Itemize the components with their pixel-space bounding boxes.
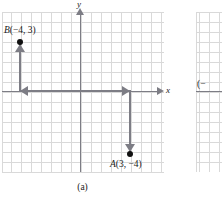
- path-segment-vertical-to-a: [129, 90, 131, 152]
- point-marker-a: [127, 151, 133, 157]
- x-axis-arrowhead-icon: [157, 87, 164, 95]
- point-marker-b: [17, 39, 23, 45]
- neighbor-partial-label: (−: [197, 80, 206, 90]
- y-axis-arrowhead-icon: [76, 8, 84, 15]
- y-axis-line: [80, 14, 81, 172]
- point-label-b-coords: (−4, 3): [10, 25, 36, 35]
- x-axis-label: x: [166, 86, 170, 95]
- path-arrow-up-icon: [15, 44, 25, 52]
- path-arrow-right-icon: [122, 86, 130, 96]
- figure-caption: (a): [0, 183, 165, 193]
- point-label-a: A(3, −4): [110, 160, 142, 170]
- neighbor-x-axis-line: [196, 91, 222, 92]
- y-axis-label: y: [77, 0, 81, 9]
- path-arrow-left-icon: [20, 86, 28, 96]
- neighbor-figure-partial: (−: [196, 12, 222, 172]
- coordinate-plane-figure: x y A(3, −4) B(−4, 3) (a): [0, 0, 222, 197]
- point-label-b: B(−4, 3): [4, 26, 36, 36]
- path-segment-horizontal: [20, 90, 130, 92]
- point-label-a-coords: (3, −4): [116, 159, 142, 169]
